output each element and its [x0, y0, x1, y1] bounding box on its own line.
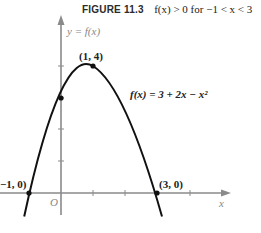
- function-label: f(x) = 3 + 2x − x²: [130, 88, 208, 101]
- y-axis-arrow-icon: [58, 15, 65, 25]
- root-left-point: [26, 190, 31, 195]
- x-axis-arrow-icon: [221, 190, 231, 197]
- vertex-point: [90, 63, 95, 68]
- root-right-label: (3, 0): [159, 178, 183, 191]
- vertex-label: (1, 4): [79, 50, 103, 63]
- parabola-chart: y = f(x) x O (1, 4) −1, 0) (3, 0) f(x) =…: [0, 0, 261, 233]
- x-axis-label: x: [218, 197, 224, 209]
- y-axis-label: y = f(x): [66, 25, 100, 38]
- origin-label: O: [50, 196, 58, 208]
- root-left-label: −1, 0): [0, 178, 27, 191]
- root-right-point: [154, 190, 159, 195]
- y-intercept-point: [58, 95, 63, 100]
